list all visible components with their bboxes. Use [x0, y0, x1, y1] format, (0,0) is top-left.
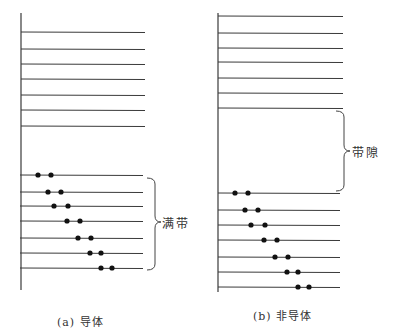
electron-dot [98, 250, 103, 255]
filled-energy-level [20, 268, 143, 269]
band-gap-label: 带隙 [352, 143, 380, 160]
filled-energy-level [20, 253, 143, 254]
electron-dot [262, 222, 267, 227]
empty-energy-level [21, 110, 145, 111]
electron-dot [284, 269, 289, 274]
empty-energy-level [21, 32, 145, 33]
electron-dot [242, 207, 247, 212]
empty-energy-level [218, 33, 343, 34]
filled-energy-level [218, 257, 340, 258]
electron-dot [98, 265, 103, 270]
electron-dot [248, 222, 253, 227]
electron-dot [245, 190, 250, 195]
electron-dot [295, 284, 300, 289]
empty-energy-level [21, 64, 145, 65]
electron-dot [51, 203, 56, 208]
empty-energy-level [218, 78, 343, 79]
electron-dot [87, 250, 92, 255]
conductor-caption: (a) 导体 [57, 313, 104, 329]
filled-band-label: 满带 [162, 214, 190, 231]
filled-energy-level [218, 287, 340, 288]
electron-dot [285, 254, 290, 259]
electron-dot [48, 172, 53, 177]
electron-dot [295, 269, 300, 274]
empty-energy-level [218, 62, 343, 63]
energy-band-diagram [0, 0, 393, 329]
electron-dot [272, 254, 277, 259]
empty-energy-level [218, 93, 343, 94]
filled-energy-level [20, 238, 143, 239]
filled-energy-level [20, 192, 143, 193]
electron-dot [45, 189, 50, 194]
curly-brace [336, 111, 350, 191]
filled-energy-level [20, 206, 143, 207]
empty-energy-level [218, 16, 343, 17]
empty-energy-level [21, 79, 145, 80]
empty-energy-level [218, 108, 343, 109]
electron-dot [261, 237, 266, 242]
empty-energy-level [21, 95, 145, 96]
electron-dot [232, 190, 237, 195]
electron-dot [88, 235, 93, 240]
empty-energy-level [21, 126, 145, 127]
electron-dot [58, 189, 63, 194]
electron-dot [77, 218, 82, 223]
electron-dot [35, 172, 40, 177]
empty-energy-level [21, 49, 145, 50]
empty-energy-level [218, 48, 343, 49]
electron-dot [65, 203, 70, 208]
insulator-caption: (b) 非导体 [253, 307, 312, 323]
insulator-panel [218, 13, 350, 292]
electron-dot [75, 235, 80, 240]
filled-energy-level [218, 225, 340, 226]
electron-dot [306, 284, 311, 289]
electron-dot [274, 237, 279, 242]
electron-dot [64, 218, 69, 223]
curly-brace [147, 178, 161, 270]
electron-dot [109, 265, 114, 270]
electron-dot [255, 207, 260, 212]
conductor-panel [20, 13, 161, 290]
filled-energy-level [218, 210, 340, 211]
filled-energy-level [218, 272, 340, 273]
